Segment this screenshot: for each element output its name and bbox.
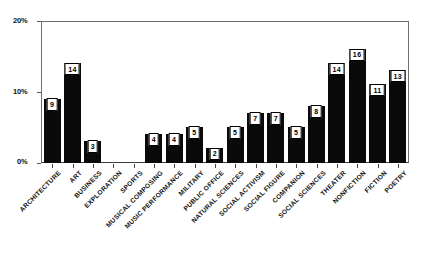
x-axis-category-label: EXPLORATION [83,169,123,209]
x-axis-category-label: SOCIAL ACTIVISM [217,169,266,218]
bar-value-label: 5 [230,126,241,138]
x-axis-category-label: ART [67,169,82,184]
x-tick [235,164,236,168]
bar-slot: 14 [62,22,82,163]
bar-slot: 9 [42,22,62,163]
bar-slot: 4 [164,22,184,163]
bar-slot: 11 [367,22,387,163]
bar-slot: 5 [184,22,204,163]
bar-slot: 7 [245,22,265,163]
bar-slot [103,22,123,163]
y-tick-20 [37,21,41,22]
x-tick [174,164,175,168]
x-axis-category-label: MUSIC PERFORMANCE [123,169,184,230]
bar-slot: 7 [266,22,286,163]
x-axis-category-label: BUSINESS [73,169,103,199]
bar-value-label: 7 [270,112,281,124]
bar-slot: 3 [83,22,103,163]
x-tick [296,164,297,168]
bar-slot: 14 [327,22,347,163]
x-tick [215,164,216,168]
x-tick [378,164,379,168]
x-tick [93,164,94,168]
bar-value-label: 3 [87,140,98,152]
bar-value-label: 7 [250,112,261,124]
x-tick [398,164,399,168]
bar-series: 914344525775814161113 [42,22,408,163]
bar [389,70,406,163]
x-axis-category-label: MUSICAL COMPOSING [104,169,163,228]
x-tick [276,164,277,168]
bar-value-label: 14 [329,63,344,75]
y-tick-0 [37,163,41,164]
x-tick [337,164,338,168]
bar-value-label: 5 [189,126,200,138]
x-tick [317,164,318,168]
x-axis-category-label: ARCHITECTURE [18,169,62,213]
x-tick [357,164,358,168]
x-axis-ticks [42,164,408,169]
bar-value-label: 8 [311,105,322,117]
bar-value-label: 14 [65,63,80,75]
bar [328,63,345,163]
bar [349,49,366,163]
x-axis-category-label: SOCIAL SCIENCES [276,169,326,219]
bar-slot: 4 [144,22,164,163]
bar-value-label: 2 [209,148,220,160]
x-axis-category-label: NATURAL SCIENCES [190,169,245,224]
bar-chart: 20% 10% 0% 914344525775814161113 ARCHITE… [0,0,434,261]
bar-value-label: 5 [291,126,302,138]
x-axis-category-label: PUBLIC OFFICE [182,169,225,212]
bar-value-label: 4 [169,133,180,145]
bar-slot: 5 [286,22,306,163]
x-tick [134,164,135,168]
bar-slot [123,22,143,163]
bar-slot: 2 [205,22,225,163]
bar-slot: 13 [388,22,408,163]
x-axis-category-label: THEATER [319,169,347,197]
x-tick [52,164,53,168]
x-axis-category-label: MILITARY [177,169,205,197]
x-axis-category-label: COMPANION [271,169,306,204]
bar-slot: 16 [347,22,367,163]
bar [64,63,81,163]
x-axis-category-label: SPORTS [118,169,143,194]
bar-slot: 8 [306,22,326,163]
bar-value-label: 13 [390,70,405,82]
bar-value-label: 16 [350,49,365,61]
x-axis-category-label: NONFICTION [331,169,367,205]
x-tick [195,164,196,168]
bar-value-label: 9 [47,98,58,110]
x-tick [256,164,257,168]
x-axis-category-label: POETRY [383,169,408,194]
bar-value-label: 4 [148,133,159,145]
x-tick [73,164,74,168]
x-axis-category-label: SOCIAL FIGURE [242,169,286,213]
bar-value-label: 11 [370,84,385,96]
bar-slot: 5 [225,22,245,163]
x-tick [154,164,155,168]
y-tick-10 [37,92,41,93]
x-tick [113,164,114,168]
x-axis-category-label: FICTION [363,169,388,194]
